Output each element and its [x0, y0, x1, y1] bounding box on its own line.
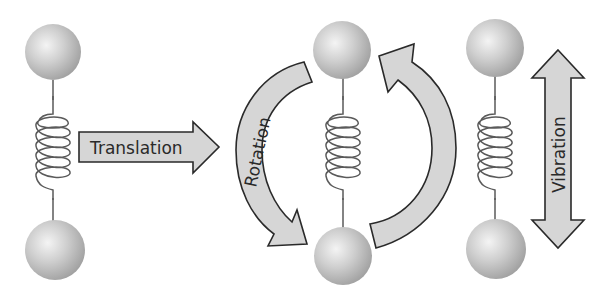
spring-bond-icon	[36, 96, 70, 200]
atom-sphere-icon	[466, 19, 524, 77]
atom-sphere-icon	[314, 227, 372, 285]
rotation-arrow-left-icon: Rotation	[236, 62, 312, 246]
molecule-right	[466, 19, 526, 279]
atom-sphere-icon	[25, 24, 81, 80]
vibration-label: Vibration	[549, 116, 569, 193]
rotation-arrow-right-icon	[370, 44, 456, 248]
atom-sphere-icon	[25, 220, 85, 280]
atom-sphere-icon	[313, 21, 371, 79]
spring-bond-icon	[478, 96, 512, 200]
spring-bond-icon	[326, 96, 360, 200]
molecule-left	[25, 24, 85, 280]
molecule-middle	[313, 21, 372, 285]
molecular-motion-diagram: Translation Rotation Vibration	[0, 0, 609, 293]
translation-arrow-icon: Translation	[79, 122, 219, 173]
translation-label: Translation	[89, 138, 183, 158]
atom-sphere-icon	[466, 219, 526, 279]
vibration-arrow-icon: Vibration	[532, 50, 584, 248]
